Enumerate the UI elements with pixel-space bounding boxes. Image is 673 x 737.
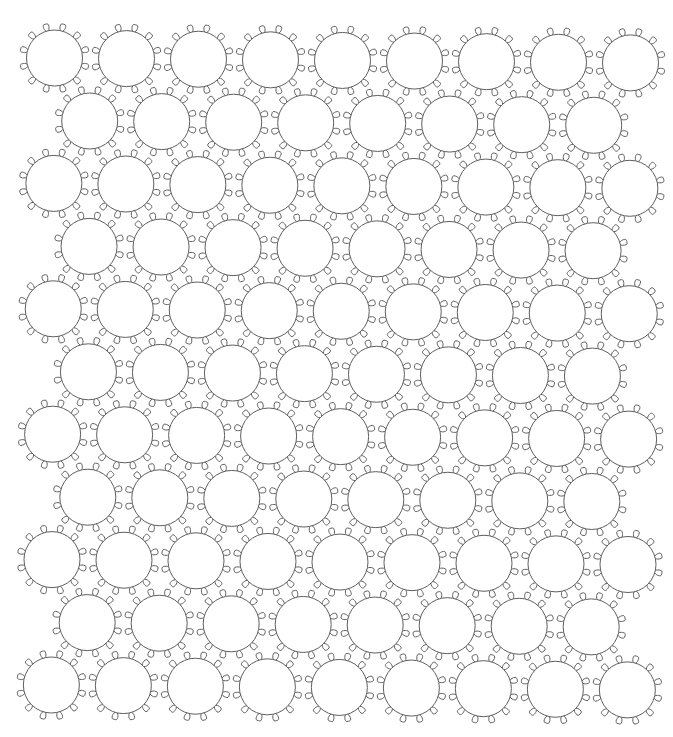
petal-loop xyxy=(258,629,265,635)
petal-loop xyxy=(548,256,555,262)
petal-loop xyxy=(617,405,623,412)
petal-loop xyxy=(153,173,160,179)
petal-loop xyxy=(401,403,407,410)
petal-loop xyxy=(455,151,461,158)
flower-circle xyxy=(272,89,340,157)
petal-loop xyxy=(221,339,227,346)
petal-loop xyxy=(343,254,350,260)
petal-loop xyxy=(292,590,298,597)
petal-loop xyxy=(523,319,530,325)
petal-loop xyxy=(510,277,516,284)
circle-row-2 xyxy=(56,87,628,159)
petal-loop xyxy=(258,277,264,284)
petal-loop xyxy=(419,339,425,346)
petal-loop xyxy=(523,427,530,433)
petal-loop xyxy=(270,488,277,494)
petal-loop xyxy=(489,655,495,662)
flower-circle xyxy=(523,279,591,347)
petal-loop xyxy=(544,716,550,723)
petal-loop xyxy=(655,570,662,576)
petal-loop xyxy=(451,318,458,324)
petal-loop xyxy=(330,613,337,619)
flower-circle xyxy=(523,404,591,472)
flower-circle xyxy=(380,27,448,95)
petal-loop xyxy=(619,215,625,222)
petal-loop xyxy=(440,317,447,323)
circle-outline xyxy=(25,406,81,462)
petal-loop xyxy=(92,189,99,195)
petal-loop xyxy=(131,336,137,343)
petal-loop xyxy=(269,630,276,636)
petal-loop xyxy=(378,568,385,574)
flower-circle xyxy=(90,526,158,594)
petal-loop xyxy=(167,148,173,155)
petal-loop xyxy=(199,253,206,259)
flower-circle xyxy=(378,529,446,597)
petal-loop xyxy=(581,342,587,349)
petal-loop xyxy=(297,49,304,55)
petal-loop xyxy=(275,277,281,284)
petal-loop xyxy=(41,400,47,407)
petal-loop xyxy=(633,530,639,537)
petal-loop xyxy=(488,113,495,119)
flower-circle xyxy=(164,25,232,93)
petal-loop xyxy=(199,236,206,242)
circle-outline xyxy=(241,283,297,339)
flower-circle xyxy=(306,528,374,596)
flower-circle xyxy=(270,465,338,533)
petal-loop xyxy=(274,402,280,409)
flower-circle xyxy=(89,652,157,720)
petal-loop xyxy=(164,173,171,179)
petal-loop xyxy=(150,674,157,680)
petal-loop xyxy=(18,565,25,571)
circle-outline xyxy=(276,471,332,527)
petal-loop xyxy=(489,715,495,722)
petal-loop xyxy=(187,211,193,218)
petal-loop xyxy=(238,339,244,346)
petal-loop xyxy=(526,277,532,284)
petal-loop xyxy=(89,674,96,680)
petal-loop xyxy=(403,88,409,95)
petal-loop xyxy=(402,339,408,346)
circle-outline xyxy=(98,156,154,212)
petal-loop xyxy=(53,628,60,634)
petal-loop xyxy=(403,363,410,369)
petal-loop xyxy=(619,29,625,36)
flower-circle xyxy=(488,91,556,159)
petal-loop xyxy=(546,340,552,347)
petal-loop xyxy=(151,440,158,446)
petal-loop xyxy=(78,273,84,280)
petal-loop xyxy=(116,126,123,132)
circle-outline xyxy=(239,659,295,715)
petal-loop xyxy=(309,465,315,472)
petal-loop xyxy=(43,210,49,217)
petal-loop xyxy=(436,592,442,599)
petal-loop xyxy=(152,315,159,321)
petal-loop xyxy=(655,553,662,559)
petal-loop xyxy=(366,676,373,682)
petal-loop xyxy=(238,274,244,281)
petal-loop xyxy=(420,27,426,34)
petal-loop xyxy=(202,401,208,408)
petal-loop xyxy=(55,252,62,258)
petal-loop xyxy=(596,194,603,200)
petal-loop xyxy=(404,238,411,244)
petal-loop xyxy=(238,400,244,407)
petal-loop xyxy=(491,278,497,285)
petal-loop xyxy=(382,340,388,347)
petal-loop xyxy=(127,236,134,242)
petal-loop xyxy=(224,315,231,321)
petal-loop xyxy=(329,589,335,596)
petal-loop xyxy=(292,651,298,658)
petal-loop xyxy=(369,175,376,181)
circle-outline xyxy=(132,344,188,400)
petal-loop xyxy=(331,504,338,510)
circle-outline xyxy=(566,97,622,153)
petal-loop xyxy=(40,712,46,719)
petal-loop xyxy=(476,113,483,119)
petal-loop xyxy=(453,652,459,659)
circle-outline xyxy=(421,221,477,277)
petal-loop xyxy=(452,67,459,73)
petal-loop xyxy=(149,338,155,345)
flower-circle xyxy=(161,652,229,720)
